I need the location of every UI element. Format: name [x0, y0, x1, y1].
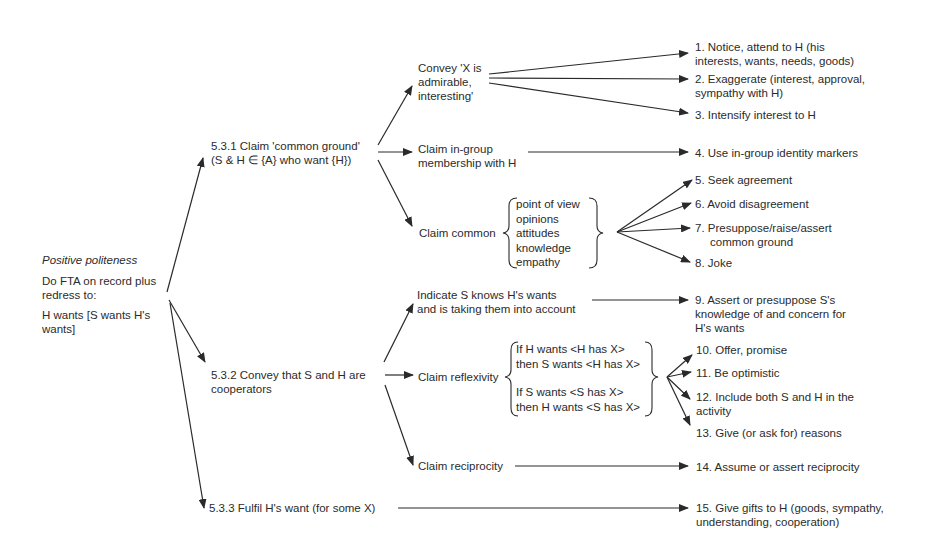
root-line-1a: Do FTA on record plus	[42, 274, 156, 288]
arrow-root-to-533	[170, 303, 204, 508]
arrow-to-10	[667, 355, 692, 377]
arrow-531-to-common	[378, 160, 412, 226]
sub-line: and is taking them into account	[417, 302, 576, 316]
brace-item: opinions	[516, 212, 580, 227]
strategy-8: 8. Joke	[695, 256, 732, 270]
strategy-line: understanding, cooperation)	[696, 515, 884, 529]
brace-item: attitudes	[516, 226, 580, 241]
arrow-to-12	[667, 377, 690, 399]
brace-common-left	[503, 198, 517, 268]
sub-claim-reflexivity: Claim reflexivity	[418, 370, 499, 384]
strategy-line: interests, wants, needs, goods)	[695, 54, 854, 68]
brace-item: point of view	[516, 197, 580, 212]
brace-item: knowledge	[516, 241, 580, 256]
strategy-line: common ground	[695, 235, 832, 249]
arrow-to-3	[489, 83, 688, 113]
strategy-line: 15. Give gifts to H (goods, sympathy,	[696, 501, 884, 515]
brace-item: then H wants <S has X>	[516, 400, 640, 415]
strategy-line: knowledge of and concern for	[695, 307, 846, 321]
strategy-line: 2. Exaggerate (interest, approval,	[695, 72, 865, 86]
root-title: Positive politeness	[42, 253, 137, 267]
strategy-9: 9. Assert or presuppose S's knowledge of…	[695, 293, 846, 335]
strategy-line: 12. Include both S and H in the	[696, 390, 854, 404]
strategy-1: 1. Notice, attend to H (his interests, w…	[695, 40, 854, 68]
brace-reflex-right	[645, 342, 658, 416]
strategy-11: 11. Be optimistic	[696, 366, 780, 380]
arrow-531-to-convey	[378, 86, 412, 145]
sub-line: Convey 'X is	[418, 61, 482, 75]
branch-532: 5.3.2 Convey that S and H are cooperator…	[211, 368, 366, 396]
branch-532-line2: cooperators	[211, 382, 366, 396]
branch-533: 5.3.3 Fulfil H's want (for some X)	[209, 501, 375, 515]
root-text-2: H wants [S wants H's wants]	[42, 308, 150, 336]
strategy-15: 15. Give gifts to H (goods, sympathy, un…	[696, 501, 884, 529]
sub-line: interesting'	[418, 89, 482, 103]
sub-line: Indicate S knows H's wants	[417, 288, 576, 302]
arrow-to-13	[667, 377, 690, 425]
sub-convey-admirable: Convey 'X is admirable, interesting'	[418, 61, 482, 103]
brace-common-right	[589, 198, 603, 268]
strategy-line: 1. Notice, attend to H (his	[695, 40, 854, 54]
arrow-to-2	[489, 78, 688, 79]
sub-claim-common: Claim common	[419, 226, 496, 240]
strategy-10: 10. Offer, promise	[696, 343, 787, 357]
strategy-5: 5. Seek agreement	[695, 173, 792, 187]
sub-indicate-s-knows: Indicate S knows H's wants and is taking…	[417, 288, 576, 316]
arrow-to-5	[617, 180, 692, 232]
sub-line: membership with H	[418, 156, 516, 170]
brace-item: If S wants <S has X>	[516, 385, 640, 400]
arrow-to-7	[617, 228, 690, 232]
arrow-to-8	[617, 232, 690, 262]
root-text-1: Do FTA on record plus redress to:	[42, 274, 156, 302]
root-line-1b: redress to:	[42, 288, 156, 302]
arrow-to-1	[489, 53, 688, 74]
brace-item: If H wants <H has X>	[516, 342, 640, 357]
strategy-6: 6. Avoid disagreement	[695, 197, 809, 211]
arrow-to-6	[617, 203, 691, 232]
strategy-4: 4. Use in-group identity markers	[695, 146, 858, 160]
strategy-line: 9. Assert or presuppose S's	[695, 293, 846, 307]
sub-line: Claim in-group	[418, 142, 516, 156]
branch-531-line2: (S & H ∈ {A} who want {H})	[211, 153, 360, 167]
strategy-line: H's wants	[695, 321, 846, 335]
root-line-2a: H wants [S wants H's	[42, 308, 150, 322]
brace-item: then S wants <H has X>	[516, 357, 640, 372]
sub-line: admirable,	[418, 75, 482, 89]
strategy-14: 14. Assume or assert reciprocity	[696, 460, 860, 474]
strategy-7: 7. Presuppose/raise/assert common ground	[695, 221, 832, 249]
root-line-2b: wants]	[42, 322, 150, 336]
sub-claim-reciprocity: Claim reciprocity	[418, 459, 503, 473]
strategy-13: 13. Give (or ask for) reasons	[696, 426, 842, 440]
sub-claim-ingroup: Claim in-group membership with H	[418, 142, 516, 170]
branch-532-line1: 5.3.2 Convey that S and H are	[211, 368, 366, 382]
arrow-532-to-reciprocity	[385, 385, 413, 465]
strategy-3: 3. Intensify interest to H	[695, 108, 816, 122]
common-brace-list: point of view opinions attitudes knowled…	[516, 197, 580, 270]
strategy-12: 12. Include both S and H in the activity	[696, 390, 854, 418]
branch-531: 5.3.1 Claim 'common ground' (S & H ∈ {A}…	[211, 139, 360, 167]
strategy-line: sympathy with H)	[695, 86, 865, 100]
brace-item: empathy	[516, 255, 580, 270]
arrow-root-to-531	[167, 158, 203, 292]
strategy-line: 7. Presuppose/raise/assert	[695, 221, 832, 235]
arrow-532-to-indicate	[384, 304, 413, 362]
reflexivity-brace-list: If H wants <H has X> then S wants <H has…	[516, 342, 640, 414]
strategy-line: activity	[696, 404, 854, 418]
branch-531-line1: 5.3.1 Claim 'common ground'	[211, 139, 360, 153]
strategy-2: 2. Exaggerate (interest, approval, sympa…	[695, 72, 865, 100]
